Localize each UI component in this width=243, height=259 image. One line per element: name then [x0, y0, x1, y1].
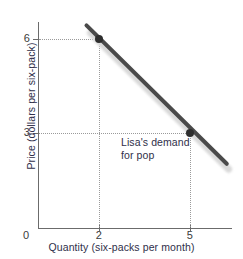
- x-axis-line: [38, 228, 232, 229]
- guide-line-horizontal-6: [39, 39, 99, 40]
- y-axis-title: Price (dollars per six-pack): [25, 13, 37, 199]
- curve-annotation-line-2: for pop: [121, 149, 190, 162]
- guide-line-vertical-5: [190, 133, 191, 227]
- data-point-2-6: [95, 35, 103, 43]
- y-axis-line: [38, 22, 39, 229]
- origin-label: 0: [23, 229, 29, 241]
- curve-annotation: Lisa's demand for pop: [121, 136, 190, 162]
- demand-curve-chart: 6 3 0 2 5 Lisa's demand for pop Quantity…: [0, 0, 243, 259]
- x-tick-label-5: 5: [183, 229, 197, 241]
- x-tick-label-2: 2: [92, 229, 106, 241]
- curve-annotation-line-1: Lisa's demand: [121, 136, 190, 149]
- x-axis-title: Quantity (six-packs per month): [0, 241, 243, 253]
- guide-line-horizontal-3: [39, 133, 190, 134]
